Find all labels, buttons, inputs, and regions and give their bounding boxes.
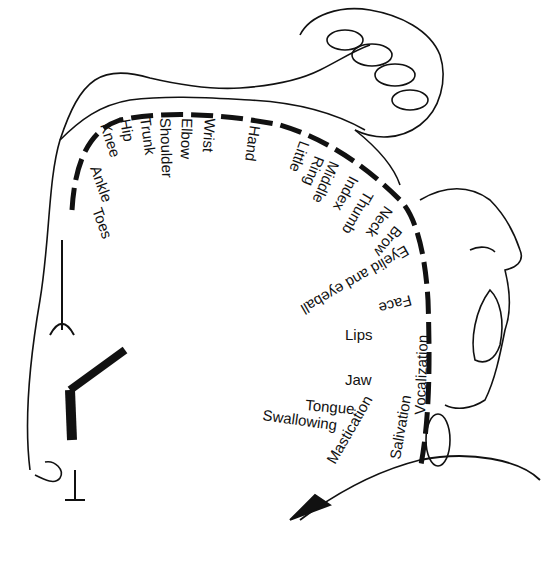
label-wrist: Wrist (200, 118, 219, 154)
cortex-arc (72, 115, 429, 470)
motor-homunculus-diagram: Toes Ankle Knee Hip Trunk Shoulder Elbow… (0, 0, 550, 572)
label-salivation: Salivation (386, 394, 414, 461)
label-shoulder: Shoulder (157, 118, 176, 179)
label-ankle: Ankle (87, 163, 116, 204)
label-trunk: Trunk (137, 116, 159, 156)
label-face: Face (377, 292, 414, 317)
face-figure (420, 189, 521, 466)
label-vocalization: Vocalization (411, 334, 431, 415)
label-lips: Lips (345, 326, 373, 343)
body-part-labels: Toes Ankle Knee Hip Trunk Shoulder Elbow… (87, 116, 431, 466)
label-hand: Hand (242, 125, 264, 163)
label-jaw: Jaw (345, 371, 372, 388)
tongue-figure (290, 456, 540, 520)
label-toes: Toes (89, 205, 116, 241)
label-elbow: Elbow (178, 118, 196, 160)
sulcus-sketches (50, 240, 125, 500)
